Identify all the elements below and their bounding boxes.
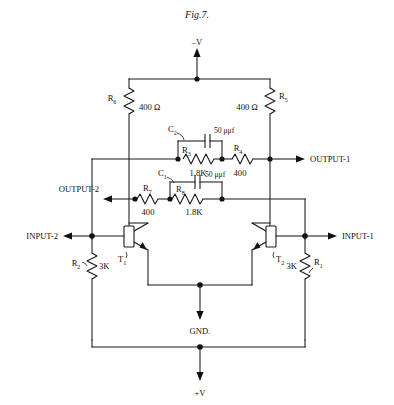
resistor-r6-ref: R6 — [108, 93, 117, 105]
transistor-t1 — [92, 223, 148, 250]
input-1-label: INPUT-1 — [342, 231, 374, 241]
gnd-arrow — [196, 285, 203, 320]
transistor-t2-ref: T2 — [276, 254, 284, 266]
output-1-arrow — [270, 155, 305, 162]
resistor-r5-ref: R5 — [279, 91, 288, 103]
resistor-r3-ref: R3 — [182, 145, 191, 157]
minus-v-supply-arrow — [193, 48, 200, 79]
circuit-schematic-svg: Fig.7. –V R6 400 Ω R5 400 Ω R3 1.8K — [0, 0, 394, 405]
schematic-canvas: Fig.7. –V R6 400 Ω R5 400 Ω R3 1.8K — [0, 0, 394, 405]
resistor-r5-value: 400 Ω — [236, 102, 258, 112]
plus-v-label: +V — [194, 388, 206, 398]
output-2-arrow — [103, 195, 135, 202]
output-1-label: OUTPUT-1 — [310, 154, 350, 164]
resistor-r2 — [87, 236, 97, 340]
resistor-r4 — [222, 154, 270, 164]
rail-label-minus-v: –V — [191, 37, 203, 47]
resistor-r1-ref: R1 — [314, 257, 323, 269]
resistor-r4-ref: R4 — [234, 143, 243, 155]
resistor-r7-ref: R7 — [143, 183, 152, 195]
resistor-r2-ref: R2 — [72, 258, 81, 270]
resistor-r6-value: 400 Ω — [139, 102, 161, 112]
resistor-r8-ref: R8 — [176, 184, 185, 196]
transistor-t1-ref: T1 — [118, 254, 126, 266]
transistor-t2 — [252, 223, 305, 250]
gnd-label: GND. — [190, 326, 211, 336]
resistor-r8 — [172, 194, 222, 204]
resistor-r7 — [137, 194, 170, 204]
junction-output-2 — [132, 196, 137, 201]
input-1-arrow — [305, 232, 337, 239]
resistor-r1 — [300, 236, 310, 340]
resistor-r2-value: 3K — [99, 261, 110, 271]
capacitor-c1-ref: C1 — [158, 168, 167, 180]
resistor-r4-value: 400 — [234, 168, 247, 178]
plus-v-supply-arrow — [196, 347, 203, 381]
output-2-label: OUTPUT-2 — [59, 184, 99, 194]
resistor-r1-value: 3K — [286, 261, 297, 271]
input-2-arrow — [63, 232, 92, 239]
junction-top-supply — [194, 76, 199, 81]
capacitor-c1-value: 50 μμf — [205, 170, 226, 179]
input-2-label: INPUT-2 — [26, 231, 58, 241]
figure-title: Fig.7. — [184, 9, 209, 20]
capacitor-c2-ref: C2 — [168, 124, 177, 136]
capacitor-c2-value: 50 μμf — [214, 126, 235, 135]
resistor-r8-value: 1.8K — [186, 207, 204, 217]
resistor-r7-value: 400 — [142, 207, 155, 217]
